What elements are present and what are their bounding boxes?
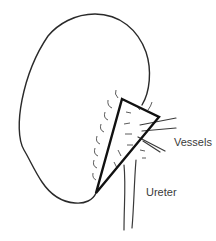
- vessels-label: Vessels: [174, 136, 212, 148]
- kidney-outline: [19, 14, 149, 203]
- hilum-triangle: [96, 99, 159, 193]
- ureter: [124, 160, 136, 230]
- ureter-label: Ureter: [146, 186, 177, 198]
- kidney-hilum-diagram: Vessels Ureter: [0, 0, 216, 241]
